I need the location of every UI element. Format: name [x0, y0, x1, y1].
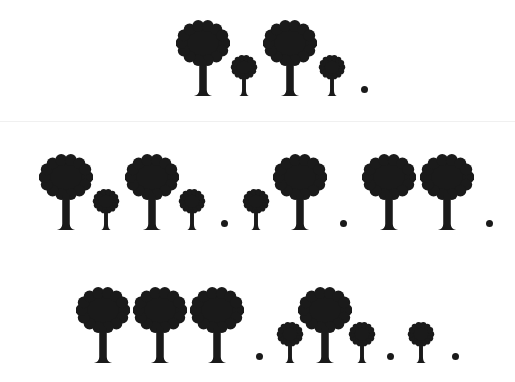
small-tree-icon — [178, 188, 206, 230]
big-tree-icon — [125, 154, 179, 230]
big-tree-icon — [273, 154, 327, 230]
dot-icon — [486, 220, 493, 227]
dot-icon — [452, 353, 459, 360]
small-tree-icon — [407, 321, 435, 363]
big-tree-icon — [190, 287, 244, 363]
dot-icon — [361, 86, 368, 93]
small-tree-icon — [230, 54, 258, 96]
big-tree-icon — [39, 154, 93, 230]
section-divider — [0, 121, 515, 122]
big-tree-icon — [133, 287, 187, 363]
dot-icon — [340, 220, 347, 227]
pattern-row-3 — [0, 287, 515, 363]
small-tree-icon — [242, 188, 270, 230]
dot-icon — [256, 353, 263, 360]
big-tree-icon — [362, 154, 416, 230]
big-tree-icon — [176, 20, 230, 96]
big-tree-icon — [263, 20, 317, 96]
dot-icon — [387, 353, 394, 360]
small-tree-icon — [92, 188, 120, 230]
dot-icon — [221, 220, 228, 227]
big-tree-icon — [420, 154, 474, 230]
big-tree-icon — [298, 287, 352, 363]
big-tree-icon — [76, 287, 130, 363]
small-tree-icon — [318, 54, 346, 96]
pattern-row-1 — [0, 20, 515, 96]
pattern-row-2 — [0, 154, 515, 230]
small-tree-icon — [348, 321, 376, 363]
